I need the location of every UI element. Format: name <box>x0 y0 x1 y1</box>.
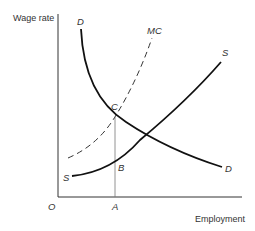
supply-label-end: S <box>222 47 229 58</box>
demand-label-end: D <box>225 163 232 174</box>
supply-label-start: S <box>63 172 70 183</box>
demand-label-top: D <box>77 16 84 27</box>
y-axis-label: Wage rate <box>13 13 54 23</box>
labor-market-diagram: Wage rate Employment O D D MC S S C B A <box>0 0 255 231</box>
mc-label: MC <box>147 25 162 36</box>
origin-label: O <box>48 201 56 212</box>
point-c-label: C <box>111 101 118 112</box>
demand-curve <box>81 29 222 167</box>
point-b-label: B <box>118 162 125 173</box>
x-axis-label: Employment <box>195 214 246 224</box>
point-a-label: A <box>111 201 118 212</box>
